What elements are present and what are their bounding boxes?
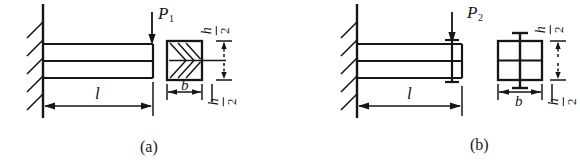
height-arrowhead-down-a [221,72,226,79]
height-arrowhead-up-a [221,42,226,49]
wall-hatching-b [341,22,357,110]
beam-a [43,44,153,78]
height-lower-label-a: h 2 [207,97,240,106]
wall-hatching-a [27,22,43,110]
length-arrowhead-right-b [450,103,461,110]
width-arrowhead-left-b [499,89,509,95]
width-arrowhead-left-a [168,89,177,95]
length-arrowhead-left-a [44,103,55,110]
figure-container: P1 l b h 2 h 2 (a) P2 l b h 2 h [0,0,580,164]
width-arrowhead-right-b [531,89,541,95]
height-upper-label-b: h 2 [534,25,567,34]
length-arrowhead-left-b [358,103,369,110]
figure-linework [0,0,580,164]
length-label-a: l [95,85,100,102]
load-arrowhead-b [448,32,455,44]
length-arrowhead-right-a [141,103,152,110]
load-label-a: P1 [158,5,173,22]
length-label-b: l [407,85,412,102]
load-label-b: P2 [467,4,482,21]
height-arrowhead-up-b [555,42,560,49]
height-lower-label-b: h 2 [547,97,580,106]
beam-b [357,44,462,78]
width-label-a: b [181,78,189,93]
panel-caption-a: (a) [140,139,158,155]
height-upper-label-a: h 2 [200,26,233,35]
height-arrowhead-down-b [555,72,560,79]
width-arrowhead-right-a [192,89,201,95]
panel-caption-b: (b) [470,137,489,153]
width-label-b: b [515,94,523,109]
